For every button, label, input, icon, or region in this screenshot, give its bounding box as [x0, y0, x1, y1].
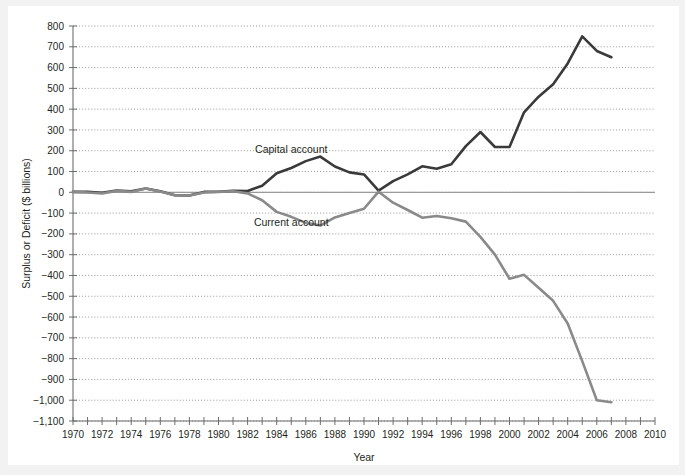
- x-tick-label: 1984: [266, 429, 289, 440]
- x-tick-label: 1998: [469, 429, 492, 440]
- x-tick-label: 2000: [498, 429, 521, 440]
- x-tick-label: 1970: [62, 429, 85, 440]
- x-tick-label: 1978: [178, 429, 201, 440]
- y-tick-label: −500: [41, 291, 64, 302]
- series-line-current-account: [73, 189, 611, 403]
- y-tick-label: −800: [41, 353, 64, 364]
- x-tick-label: 1986: [295, 429, 318, 440]
- x-tick-label: 2004: [557, 429, 580, 440]
- x-tick-label: 1972: [91, 429, 114, 440]
- y-axis-ticks: 8007006005004003002001000−100−200−300−40…: [33, 21, 77, 427]
- gridlines: [73, 26, 655, 421]
- y-tick-label: 300: [47, 125, 64, 136]
- y-tick-label: −300: [41, 249, 64, 260]
- y-tick-label: −900: [41, 374, 64, 385]
- x-tick-label: 1982: [236, 429, 259, 440]
- x-tick-label: 2002: [527, 429, 550, 440]
- x-axis-title: Year: [353, 451, 375, 463]
- y-tick-label: 600: [47, 62, 64, 73]
- x-tick-label: 1990: [353, 429, 376, 440]
- y-tick-label: 400: [47, 104, 64, 115]
- y-tick-label: 800: [47, 21, 64, 32]
- series-label-capital-account: Capital account: [255, 143, 327, 155]
- figure-root: 8007006005004003002001000−100−200−300−40…: [0, 0, 685, 475]
- x-tick-label: 1976: [149, 429, 172, 440]
- x-tick-label: 1996: [440, 429, 463, 440]
- y-tick-label: −200: [41, 228, 64, 239]
- line-chart: 8007006005004003002001000−100−200−300−40…: [8, 6, 679, 465]
- chart-canvas: 8007006005004003002001000−100−200−300−40…: [8, 6, 679, 465]
- y-tick-label: −400: [41, 270, 64, 281]
- y-tick-label: −600: [41, 312, 64, 323]
- y-tick-label: 200: [47, 145, 64, 156]
- y-axis-title: Surplus or Deficit ($ billions): [20, 158, 32, 289]
- y-tick-label: −700: [41, 332, 64, 343]
- x-tick-label: 2010: [644, 429, 667, 440]
- x-tick-label: 1974: [120, 429, 143, 440]
- y-tick-label: −1,100: [33, 416, 64, 427]
- y-tick-label: 700: [47, 41, 64, 52]
- x-tick-label: 2006: [586, 429, 609, 440]
- y-tick-label: 500: [47, 83, 64, 94]
- x-tick-label: 1992: [382, 429, 405, 440]
- x-tick-label: 1994: [411, 429, 434, 440]
- y-tick-label: −1,000: [33, 395, 64, 406]
- x-tick-label: 1988: [324, 429, 347, 440]
- series-label-current-account: Current account: [254, 216, 329, 228]
- y-tick-label: 0: [58, 187, 64, 198]
- y-tick-label: 100: [47, 166, 64, 177]
- y-tick-label: −100: [41, 208, 64, 219]
- x-tick-label: 1980: [207, 429, 230, 440]
- x-tick-label: 2008: [615, 429, 638, 440]
